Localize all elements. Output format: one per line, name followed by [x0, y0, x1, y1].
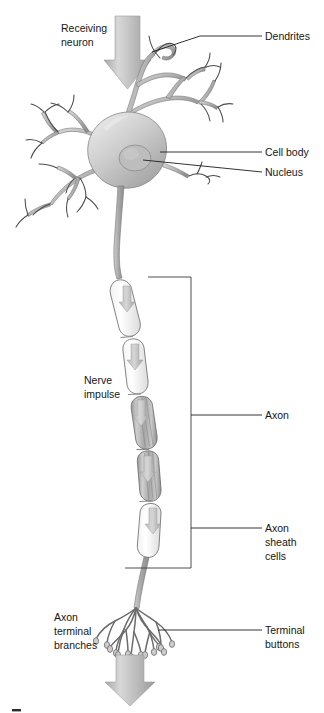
label-axon-terminal-line1: Axon: [54, 611, 78, 623]
incoming-impulse-arrow: [104, 16, 151, 89]
label-axon-terminal-line3: branches: [54, 639, 97, 651]
label-terminal-buttons-line1: Terminal: [265, 624, 305, 636]
label-axon-sheath-line2: sheath: [265, 536, 297, 548]
label-group: Receiving neuron Dendrites Cell body Nuc…: [54, 22, 310, 651]
figure-canvas: Receiving neuron Dendrites Cell body Nuc…: [0, 0, 324, 713]
label-nerve-impulse-line2: impulse: [84, 388, 120, 400]
label-axon-sheath-line3: cells: [265, 550, 286, 562]
label-axon-sheath-line1: Axon: [265, 522, 289, 534]
outgoing-impulse-arrow: [105, 655, 155, 706]
label-axon: Axon: [265, 409, 289, 421]
caption-fragment: [12, 709, 21, 711]
leader-lines: [143, 36, 262, 630]
axon-lower: [134, 557, 149, 609]
label-terminal-buttons-line2: buttons: [265, 638, 299, 650]
neuron-diagram: Receiving neuron Dendrites Cell body Nuc…: [0, 0, 324, 713]
label-nucleus: Nucleus: [265, 166, 303, 178]
label-cell-body: Cell body: [265, 146, 310, 158]
axon-upper: [114, 186, 124, 279]
label-dendrites: Dendrites: [265, 30, 310, 42]
label-nerve-impulse-line1: Nerve: [84, 374, 112, 386]
label-receiving-neuron-line1: Receiving: [61, 22, 107, 34]
label-axon-terminal-line2: terminal: [54, 625, 91, 637]
label-receiving-neuron-line2: neuron: [61, 36, 94, 48]
cell-body: [88, 112, 189, 188]
